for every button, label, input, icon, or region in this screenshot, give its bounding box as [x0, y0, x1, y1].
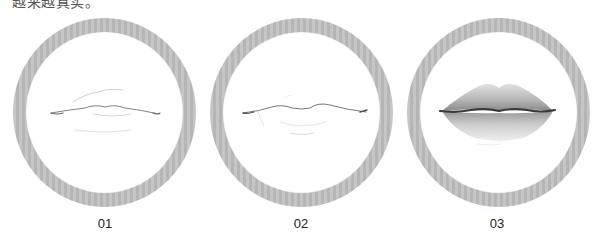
step-label-02: 02: [271, 216, 331, 231]
step-label-03: 03: [467, 216, 527, 231]
lips-rendered-icon: [407, 18, 590, 207]
lips-sketch-light-icon: [13, 18, 196, 207]
step-03-circle: [407, 18, 590, 207]
step-01-circle: [13, 18, 196, 207]
step-label-01: 01: [75, 216, 135, 231]
caption-top-clipped: 越来越真实。: [12, 0, 99, 11]
lips-sketch-refined-icon: [210, 18, 393, 207]
step-02-circle: [210, 18, 393, 207]
